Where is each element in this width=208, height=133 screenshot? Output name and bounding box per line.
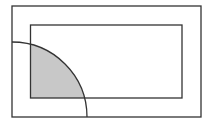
shaded-region — [0, 42, 87, 133]
geometry-diagram — [0, 0, 208, 133]
